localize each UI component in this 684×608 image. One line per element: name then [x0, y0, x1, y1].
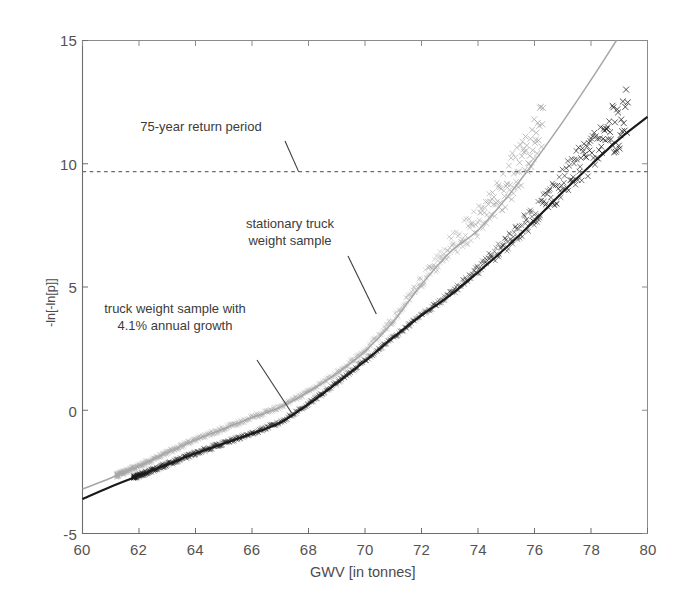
x-tick-label-80: 80: [639, 541, 656, 558]
annotation-stationary-sample: stationary truck weight sample: [246, 215, 334, 249]
x-tick-label-76: 76: [526, 541, 543, 558]
y-tick-label-5: 5: [57, 279, 77, 296]
x-tick-label-60: 60: [73, 541, 90, 558]
x-tick-label-68: 68: [300, 541, 317, 558]
y-tick-label-10: 10: [57, 155, 77, 172]
y-axis-title: -ln[-ln[p]]: [44, 278, 58, 327]
x-tick-label-74: 74: [470, 541, 487, 558]
x-tick-label-62: 62: [130, 541, 147, 558]
y-tick-label-minus5: -5: [55, 526, 77, 543]
annotation-growth-line1: truck weight sample with: [104, 300, 246, 317]
x-tick-label-64: 64: [187, 541, 204, 558]
y-axis-ticks: [83, 41, 89, 534]
x-tick-label-66: 66: [243, 541, 260, 558]
x-axis-title: GWV [in tonnes]: [310, 564, 416, 580]
x-tick-label-78: 78: [583, 541, 600, 558]
gumbel-probability-chart: 60 62 64 66 68 70 72 74 76 78 80 15 10 5…: [0, 0, 684, 608]
y-tick-label-0: 0: [57, 402, 77, 419]
annotation-return-period: 75-year return period: [140, 118, 261, 135]
fit-curve-stationary-truck-weight-sample: [83, 41, 617, 490]
annotation-stationary-line2: weight sample: [246, 232, 334, 249]
scatter-stationary-truck-weight-sample: [114, 104, 546, 480]
y-tick-label-15: 15: [57, 32, 77, 49]
annotation-stationary-line1: stationary truck: [246, 215, 334, 232]
annotation-return-period-text: 75-year return period: [140, 118, 261, 135]
scatter-truck-weight-growth-sample: [131, 87, 631, 481]
annotation-growth-sample: truck weight sample with 4.1% annual gro…: [104, 300, 246, 334]
annotation-leader-lines: [257, 141, 376, 413]
annotation-growth-line2: 4.1% annual growth: [104, 317, 246, 334]
x-axis-ticks-top: [83, 41, 648, 47]
x-tick-label-72: 72: [413, 541, 430, 558]
plot-canvas: [0, 0, 684, 608]
y-axis-ticks-right: [642, 41, 648, 534]
x-tick-label-70: 70: [356, 541, 373, 558]
x-axis-ticks: [83, 528, 648, 534]
